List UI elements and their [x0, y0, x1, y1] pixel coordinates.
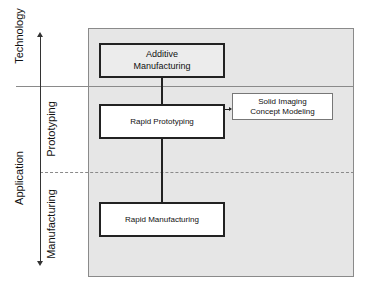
connector-prototyping-to-manufacturing — [161, 139, 163, 203]
application-label: Application — [13, 138, 27, 218]
application-axis-line — [40, 86, 41, 262]
manufacturing-zone-label: Manufacturing — [45, 182, 59, 266]
rapid-manufacturing-box: Rapid Manufacturing — [99, 202, 225, 237]
rapid-manufacturing-label: Rapid Manufacturing — [125, 215, 199, 225]
prototyping-zone-label: Prototyping — [45, 89, 59, 169]
connector-additive-to-prototyping — [161, 78, 163, 104]
additive-manufacturing-box: AdditiveManufacturing — [99, 43, 225, 78]
solid-imaging-line2: Concept Modeling — [250, 107, 314, 117]
up-arrow-icon — [37, 32, 43, 37]
technology-label: Technology — [13, 0, 27, 76]
down-arrow-icon — [37, 261, 43, 266]
prototyping-manufacturing-divider — [40, 172, 354, 173]
additive-line1: Additive — [133, 49, 190, 60]
additive-line2: Manufacturing — [133, 61, 190, 72]
rapid-prototyping-label: Rapid Prototyping — [130, 117, 194, 127]
technology-axis-line — [40, 36, 41, 86]
solid-imaging-line1: Solid Imaging — [250, 97, 314, 107]
solid-imaging-box: Solid ImagingConcept Modeling — [232, 93, 333, 120]
rapid-prototyping-box: Rapid Prototyping — [99, 104, 225, 139]
technology-application-divider — [16, 86, 354, 87]
